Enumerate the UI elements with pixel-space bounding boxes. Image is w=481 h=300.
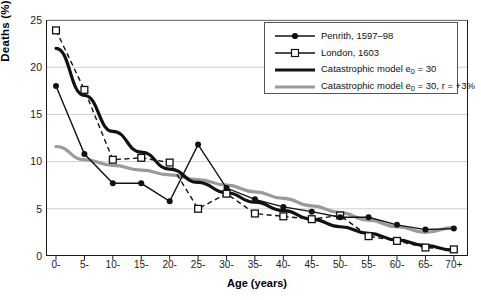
x-tick-70+: 70+ — [439, 259, 469, 270]
x-tick-60: 60- — [382, 259, 412, 270]
x-tick-40: 40- — [268, 259, 298, 270]
penrith-point-7 — [252, 196, 258, 202]
penrith-point-13 — [422, 227, 428, 233]
london-point-7 — [252, 210, 259, 217]
london-point-13 — [422, 244, 429, 251]
legend-label-model-text: Catastrophic model e0 = 30 — [321, 63, 436, 74]
london-point-1 — [81, 86, 88, 93]
penrith-point-4 — [167, 198, 173, 204]
london-point-6 — [223, 190, 230, 197]
london-point-8 — [280, 213, 287, 220]
penrith-point-11 — [366, 214, 372, 220]
legend-label-london: London, 1603 — [317, 47, 379, 58]
london-point-9 — [308, 216, 315, 223]
x-tick-50: 50- — [325, 259, 355, 270]
london-point-2 — [109, 156, 116, 163]
penrith-point-10 — [337, 214, 343, 220]
london-point-0 — [53, 27, 60, 34]
legend-item-model-r3: Catastrophic model e0 = 30, r = +3% — [265, 78, 457, 95]
legend-label-model: Catastrophic model e0 = 30 — [317, 63, 436, 76]
x-tick-25: 25- — [183, 259, 213, 270]
x-tick-10: 10- — [98, 259, 128, 270]
legend-label-model-r3-text: Catastrophic model e0 = 30, r = +3% — [321, 80, 475, 91]
legend-item-london: London, 1603 — [265, 44, 457, 61]
penrith-point-14 — [451, 226, 457, 232]
london-point-5 — [195, 205, 202, 212]
penrith-point-1 — [81, 151, 87, 157]
legend-item-model: Catastrophic model e0 = 30 — [265, 61, 457, 78]
penrith-point-9 — [309, 209, 315, 215]
london-point-14 — [450, 246, 457, 253]
legend-key-filled-circle-line — [273, 30, 317, 42]
legend-label-model-r3: Catastrophic model e0 = 30, r = +3% — [317, 80, 475, 93]
penrith-point-5 — [195, 142, 201, 148]
penrith-point-3 — [138, 180, 144, 186]
legend-key-thick-gray-line — [273, 81, 317, 93]
x-tick-20: 20- — [155, 259, 185, 270]
x-axis-label: Age (years) — [46, 277, 468, 289]
penrith-point-0 — [53, 83, 59, 89]
x-tick-0: 0- — [41, 259, 71, 270]
legend-item-penrith: Penrith, 1597–98 — [265, 27, 457, 44]
london-point-11 — [365, 233, 372, 240]
london-point-3 — [138, 154, 145, 161]
x-tick-65: 65- — [410, 259, 440, 270]
legend-key-open-square-line — [273, 47, 317, 59]
penrith-point-8 — [280, 204, 286, 210]
legend-label-penrith: Penrith, 1597–98 — [317, 30, 393, 41]
legend-key-thick-black-line — [273, 64, 317, 76]
x-tick-15: 15- — [126, 259, 156, 270]
london-point-4 — [166, 159, 173, 166]
chart-legend: Penrith, 1597–98 London, 1603 Catastroph… — [264, 22, 458, 94]
penrith-point-2 — [110, 180, 116, 186]
x-tick-5: 5- — [69, 259, 99, 270]
penrith-point-12 — [394, 222, 400, 228]
x-tick-45: 45- — [297, 259, 327, 270]
x-tick-55: 55- — [354, 259, 384, 270]
penrith-point-6 — [224, 185, 230, 191]
x-tick-30: 30- — [212, 259, 242, 270]
chart-figure: 25 20 15 10 5 0 Deaths (%) 0-5-10-15-20-… — [0, 0, 481, 300]
x-tick-35: 35- — [240, 259, 270, 270]
london-point-12 — [394, 237, 401, 244]
